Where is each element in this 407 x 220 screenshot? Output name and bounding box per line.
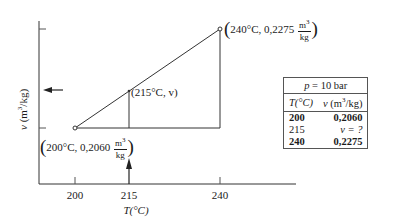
unit-den: kg (116, 150, 125, 160)
paren-close: ) (312, 18, 318, 39)
unit-den: kg (300, 32, 309, 42)
point-low (73, 126, 77, 130)
cell-v: 0,2060 (318, 111, 368, 124)
steam-table: p = 10 bar T(°C) v (m3/kg) 200 0,2060 21… (283, 77, 368, 149)
paren-open: ( (40, 136, 46, 157)
point-high-label: (240°C, 0,2275 m3kg) (224, 17, 318, 42)
x-axis-label: T(°C) (123, 204, 148, 216)
point-mid (128, 90, 131, 93)
point-high-unit: m3kg (298, 19, 311, 42)
point-high-v: 0,2275 (264, 23, 294, 35)
y-axis-unit-exp: 3 (16, 107, 24, 111)
cell-T: 215 (284, 124, 319, 136)
header-v: v (m3/kg) (318, 94, 368, 112)
table-row: 200 0,2060 (284, 111, 368, 124)
unit-exp: 3 (306, 18, 310, 26)
y-axis-label: v (m3/kg) (16, 89, 29, 130)
table-title-rest: = 10 bar (309, 80, 347, 91)
table-title-row: p = 10 bar (284, 78, 368, 94)
point-low-v: 0,2060 (80, 141, 110, 153)
header-v-pre: (m (328, 98, 342, 109)
table-header-row: T(°C) v (m3/kg) (284, 94, 368, 112)
y-axis-unit-pre: (m (17, 110, 29, 125)
x-tick-label-215: 215 (121, 189, 138, 201)
point-high (218, 27, 222, 31)
cell-v: v = ? (318, 124, 368, 136)
cell-T: 240 (284, 136, 319, 149)
paren-close: ) (128, 136, 134, 157)
left-arrow-icon (43, 87, 52, 93)
point-low-unit: m3kg (114, 137, 127, 160)
cell-T: 200 (284, 111, 319, 124)
point-high-T: 240°C (230, 23, 258, 35)
y-axis-unit-post: /kg) (17, 89, 29, 107)
x-tick-label-240: 240 (212, 189, 229, 201)
header-v-post: /kg) (346, 98, 363, 109)
interpolation-line (75, 29, 220, 128)
unit-exp: 3 (122, 136, 126, 144)
y-axis-var: v (17, 125, 29, 130)
x-tick-label-200: 200 (67, 189, 84, 201)
table-row: 215 v = ? (284, 124, 368, 136)
header-T-text: T(°C) (289, 97, 313, 108)
cell-v: 0,2275 (318, 136, 368, 149)
paren-open: ( (224, 18, 230, 39)
table-title: p = 10 bar (284, 78, 368, 94)
header-T: T(°C) (284, 94, 319, 112)
point-mid-label: (215°C, v) (131, 87, 178, 98)
point-low-T: 200°C (46, 141, 74, 153)
table-row: 240 0,2275 (284, 136, 368, 149)
point-low-label: (200°C, 0,2060 m3kg) (40, 135, 134, 160)
